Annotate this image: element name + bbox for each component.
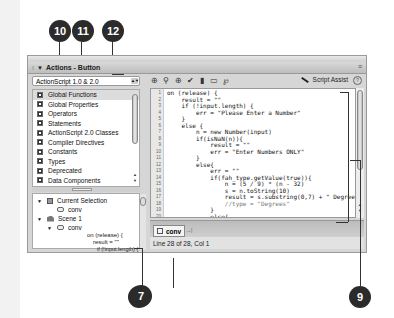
panel-menu-icon[interactable]: ≡ bbox=[358, 63, 362, 70]
nav-code-line: result = "" bbox=[93, 239, 119, 245]
callout-12-label: 12 bbox=[107, 25, 119, 37]
navigator-scrollbar[interactable] bbox=[140, 194, 146, 250]
toolbox-item-label: ActionScript 2.0 Classes bbox=[48, 129, 118, 136]
grip-icon[interactable]: ⁞ bbox=[32, 65, 34, 71]
scroll-thumb[interactable] bbox=[132, 94, 138, 144]
auto-format-icon[interactable]: ▮ bbox=[198, 77, 206, 85]
find-icon[interactable]: ⚲ bbox=[162, 77, 170, 85]
button-symbol-icon bbox=[57, 225, 64, 230]
script-navigator: ▼ Current Selection conv ▼ Scene 1 ▼ con… bbox=[32, 193, 140, 249]
callout-9-label: 9 bbox=[357, 291, 363, 303]
line-number: 14 bbox=[156, 175, 161, 180]
actionscript-version-select[interactable]: ActionScript 1.0 & 2.0 ▲▼ bbox=[32, 76, 140, 86]
callout-11: 11 bbox=[72, 20, 94, 42]
show-code-hint-icon[interactable]: ▭ bbox=[210, 77, 218, 85]
book-icon bbox=[37, 139, 43, 145]
line-number: 18 bbox=[156, 201, 161, 206]
line-number: 2 bbox=[158, 97, 161, 102]
script-assist-button[interactable]: Script Assist bbox=[301, 76, 348, 83]
toolbox-item-types[interactable]: Types bbox=[33, 157, 139, 167]
callout-9-line-h bbox=[350, 160, 360, 161]
panel-header[interactable]: ⁞ ▼ Actions - Button ≡ bbox=[28, 62, 366, 74]
nav-scene-item[interactable]: ▼ conv bbox=[47, 224, 82, 231]
callout-7: 7 bbox=[130, 285, 152, 307]
line-number-gutter: 1 2 3 4 5 6 7 8 9 10 11 12 13 14 15 16 1… bbox=[151, 89, 164, 218]
scroll-up-icon[interactable]: ▲ bbox=[132, 172, 138, 177]
callout-12-line-h bbox=[112, 74, 124, 75]
add-statement-icon[interactable]: ⊕ bbox=[150, 77, 158, 85]
callout-9-bracket-bottom bbox=[336, 222, 348, 223]
toolbox-item-label: Constants bbox=[48, 148, 77, 155]
script-editor[interactable]: 1 2 3 4 5 6 7 8 9 10 11 12 13 14 15 16 1… bbox=[150, 88, 356, 218]
line-number: 9 bbox=[158, 142, 161, 147]
pin-script-icon[interactable] bbox=[157, 228, 163, 234]
toolbox-item-statements[interactable]: Statements bbox=[33, 119, 139, 129]
collapse-triangle-icon[interactable]: ▼ bbox=[37, 65, 43, 71]
callout-6-line bbox=[173, 258, 174, 288]
splitter-handle[interactable] bbox=[72, 188, 92, 191]
line-number: 12 bbox=[156, 162, 161, 167]
toolbox-item-label: Compiler Directives bbox=[48, 139, 104, 146]
toolbox-item-constants[interactable]: Constants bbox=[33, 147, 139, 157]
line-number: 20 bbox=[156, 214, 161, 219]
line-number: 5 bbox=[158, 116, 161, 121]
line-col-status: Line 28 of 28, Col 1 bbox=[153, 240, 209, 247]
nav-current-item[interactable]: conv bbox=[57, 206, 82, 213]
scroll-down-icon[interactable]: ▼ bbox=[132, 178, 138, 183]
script-tab-conv[interactable]: conv bbox=[153, 225, 185, 237]
book-icon bbox=[37, 92, 43, 98]
expand-triangle-icon[interactable]: ▼ bbox=[37, 198, 42, 204]
tab-pin-arrow-icon[interactable]: →| bbox=[186, 227, 192, 233]
line-number: 4 bbox=[158, 110, 161, 115]
pane-splitter[interactable] bbox=[32, 187, 140, 192]
scroll-thumb[interactable] bbox=[140, 197, 146, 206]
status-bar: Line 28 of 28, Col 1 bbox=[150, 237, 364, 249]
code-line: else{ bbox=[167, 213, 228, 219]
book-icon bbox=[37, 111, 43, 117]
nav-code-line: if (!input.length) { bbox=[97, 246, 138, 252]
callout-7-line-h bbox=[134, 248, 142, 249]
toolbox-item-compiler-directives[interactable]: Compiler Directives bbox=[33, 138, 139, 148]
callout-7-label: 7 bbox=[138, 290, 144, 302]
expand-triangle-icon[interactable]: ▼ bbox=[37, 216, 42, 222]
toolbox-item-label: Global Properties bbox=[48, 101, 98, 108]
callout-7-line bbox=[142, 248, 143, 286]
line-number: 1 bbox=[158, 90, 161, 95]
toolbox-item-data-components[interactable]: Data Components bbox=[33, 176, 139, 186]
nav-label: Scene 1 bbox=[58, 215, 82, 222]
toolbox-item-label: Global Functions bbox=[48, 91, 97, 98]
left-pane: ActionScript 1.0 & 2.0 ▲▼ Global Functio… bbox=[32, 76, 142, 250]
book-icon bbox=[37, 101, 43, 107]
line-number: 10 bbox=[156, 149, 161, 154]
toolbox-item-deprecated[interactable]: Deprecated bbox=[33, 166, 139, 176]
selection-icon bbox=[47, 198, 53, 204]
expand-triangle-icon[interactable]: ▼ bbox=[47, 225, 52, 231]
book-icon bbox=[37, 177, 43, 183]
toolbox-item-label: Deprecated bbox=[48, 167, 82, 174]
nav-scene[interactable]: ▼ Scene 1 bbox=[37, 215, 82, 222]
book-icon bbox=[37, 149, 43, 155]
toolbox-scrollbar[interactable]: ▲ ▼ bbox=[132, 92, 138, 184]
scroll-thumb[interactable] bbox=[357, 90, 363, 170]
insert-target-path-icon[interactable]: ⊕ bbox=[174, 77, 182, 85]
select-arrows-icon: ▲▼ bbox=[131, 78, 138, 84]
callout-10-label: 10 bbox=[54, 25, 66, 37]
toolbox-item-global-functions[interactable]: Global Functions bbox=[33, 90, 139, 100]
toolbox-item-as2-classes[interactable]: ActionScript 2.0 Classes bbox=[33, 128, 139, 138]
toolbox-item-label: Operators bbox=[48, 110, 77, 117]
toolbox-item-label: Data Components bbox=[48, 177, 100, 184]
script-tab-label: conv bbox=[166, 228, 181, 235]
callout-12: 12 bbox=[102, 20, 124, 42]
check-syntax-icon[interactable]: ✔ bbox=[186, 77, 194, 85]
script-assist-label: Script Assist bbox=[313, 76, 348, 83]
book-icon bbox=[37, 120, 43, 126]
toolbox-item-global-properties[interactable]: Global Properties bbox=[33, 100, 139, 110]
line-number: 13 bbox=[156, 168, 161, 173]
line-number: 8 bbox=[158, 136, 161, 141]
help-icon[interactable]: ? bbox=[353, 76, 362, 85]
debug-options-icon[interactable]: ℘ bbox=[222, 77, 230, 85]
nav-code-line: on (release) { bbox=[87, 232, 123, 238]
line-number: 17 bbox=[156, 194, 161, 199]
nav-current-selection[interactable]: ▼ Current Selection bbox=[37, 197, 107, 204]
toolbox-item-operators[interactable]: Operators bbox=[33, 109, 139, 119]
